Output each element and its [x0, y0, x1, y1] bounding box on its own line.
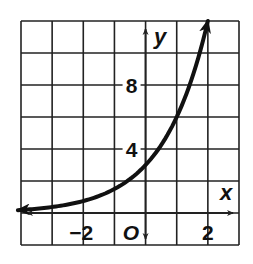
x-tick-label: 2: [202, 221, 214, 244]
grid-lines: [21, 21, 239, 245]
x-axis-label: x: [219, 180, 233, 205]
exponential-curve: [18, 21, 208, 210]
function-curve: [18, 21, 208, 210]
x-tick-label: −2: [69, 221, 93, 244]
exponential-graph: −2248xyO: [0, 0, 253, 264]
y-tick-label: 8: [126, 74, 138, 97]
y-axis-label: y: [153, 24, 168, 49]
origin-label: O: [123, 221, 139, 244]
y-tick-label: 4: [126, 138, 138, 161]
